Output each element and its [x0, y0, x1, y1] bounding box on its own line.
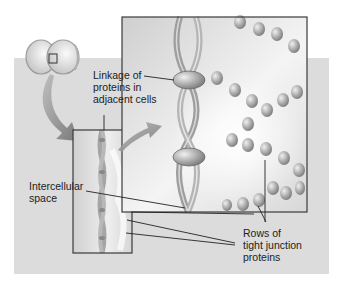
magnified-view [122, 15, 307, 212]
linkage-protein-1 [173, 71, 205, 89]
label-linkage-of-proteins: Linkage of proteins in adjacent cells [93, 69, 157, 105]
linkage-protein-2 [173, 148, 205, 166]
label-intercellular-space: Intercellular space [29, 180, 83, 204]
tight-junction-diagram: Linkage of proteins in adjacent cells In… [0, 0, 339, 283]
label-tight-junction-proteins: Rows of tight junction proteins [243, 227, 302, 263]
two-cell-icon [26, 40, 79, 74]
